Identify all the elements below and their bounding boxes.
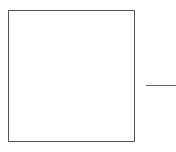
horizontal-connector-line <box>146 85 176 86</box>
square-box <box>8 10 135 142</box>
diagram-canvas <box>0 0 176 152</box>
